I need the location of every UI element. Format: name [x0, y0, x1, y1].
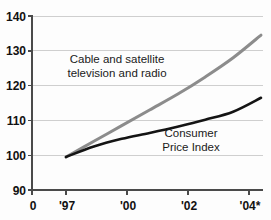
series-annotations: Cable and satellite television and radio…: [67, 53, 220, 153]
series-label-cpi-line2: Price Index: [162, 141, 220, 153]
chart-canvas: 140 130 120 110 100 90 0 '97 '00 '02 '04…: [0, 0, 271, 220]
y-tick-label-100: 100: [6, 149, 26, 163]
x-tick-labels: 0 '97 '00 '02 '04*: [30, 199, 261, 213]
line-chart: 140 130 120 110 100 90 0 '97 '00 '02 '04…: [0, 0, 271, 220]
x-tick-label-97: '97: [59, 199, 76, 213]
x-tick-label-origin: 0: [30, 199, 37, 213]
series-label-cable-line2: television and radio: [67, 67, 166, 79]
series-label-cable-line1: Cable and satellite: [70, 53, 165, 65]
x-tick-label-04: '04*: [240, 199, 261, 213]
y-tick-label-110: 110: [7, 114, 27, 128]
y-tick-label-120: 120: [6, 79, 26, 93]
y-tick-label-130: 130: [6, 44, 26, 58]
y-tick-label-140: 140: [6, 10, 26, 24]
axes: [32, 15, 263, 190]
x-tick-label-02: '02: [181, 199, 198, 213]
y-tick-labels: 140 130 120 110 100 90: [6, 10, 26, 198]
series-label-cpi-line1: Consumer: [164, 127, 217, 139]
x-tick-label-00: '00: [120, 199, 137, 213]
y-tick-label-90: 90: [13, 184, 27, 198]
